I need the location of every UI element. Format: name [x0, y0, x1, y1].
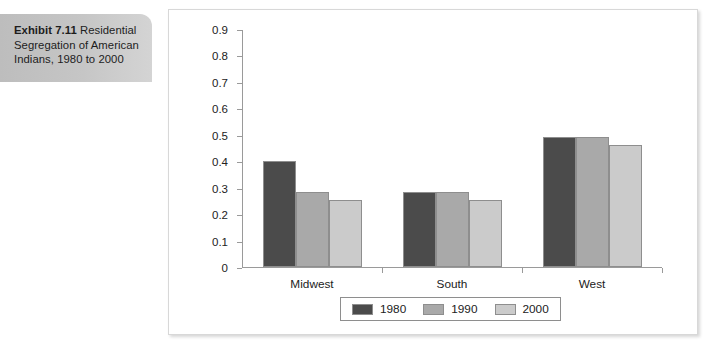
y-axis-tick-label: 0.5 [212, 130, 228, 142]
x-axis-tick [662, 268, 663, 273]
bar-midwest-2000 [329, 200, 362, 267]
chart-legend: 198019902000 [340, 297, 561, 321]
exhibit-caption-lead: Exhibit 7.11 [14, 24, 77, 36]
y-axis-tick-label: 0.8 [212, 50, 228, 62]
bar-west-2000 [609, 145, 642, 267]
y-axis-tick-label: 0.2 [212, 209, 228, 221]
legend-label-1990: 1990 [451, 302, 477, 316]
y-axis-tick-label: 0.7 [212, 77, 228, 89]
exhibit-caption-text: Exhibit 7.11 Residential Segregation of … [14, 23, 140, 67]
legend-label-1980: 1980 [380, 302, 406, 316]
y-axis-tick: 0.9 [237, 30, 242, 31]
y-axis-tick-label: 0.9 [212, 24, 228, 36]
x-axis-tick [382, 268, 383, 273]
exhibit-caption-block: Exhibit 7.11 Residential Segregation of … [0, 14, 152, 82]
bar-south-1990 [436, 192, 469, 267]
x-axis-label-south: South [437, 277, 468, 291]
legend-item-1980: 1980 [352, 302, 406, 316]
y-axis-tick: 0.6 [237, 109, 242, 110]
y-axis-tick-label: 0.3 [212, 183, 228, 195]
bar-west-1980 [543, 137, 576, 267]
bar-south-2000 [469, 200, 502, 267]
y-axis-line [242, 30, 243, 268]
y-axis-tick: 0.4 [237, 162, 242, 163]
x-axis-line [242, 267, 662, 268]
y-axis-tick: 0.1 [237, 242, 242, 243]
chart-plot-area: 0.90.80.70.60.50.40.30.20.10 MidwestSout… [242, 30, 662, 268]
y-axis-tick: 0.2 [237, 215, 242, 216]
legend-item-1990: 1990 [423, 302, 477, 316]
bar-midwest-1980 [263, 161, 296, 267]
legend-item-2000: 2000 [495, 302, 549, 316]
y-axis-tick: 0.5 [237, 136, 242, 137]
legend-swatch-1990 [423, 304, 444, 315]
legend-swatch-2000 [495, 304, 516, 315]
y-axis-tick-label: 0.4 [212, 156, 228, 168]
y-axis-tick-label: 0.6 [212, 103, 228, 115]
y-axis-tick: 0.3 [237, 189, 242, 190]
bar-midwest-1990 [296, 192, 329, 267]
bar-south-1980 [403, 192, 436, 267]
x-axis-label-west: West [579, 277, 606, 291]
y-axis-tick: 0 [237, 268, 242, 269]
y-axis-tick-label: 0 [222, 262, 228, 274]
chart-figure-frame: 0.90.80.70.60.50.40.30.20.10 MidwestSout… [168, 9, 698, 335]
legend-swatch-1980 [352, 304, 373, 315]
legend-label-2000: 2000 [523, 302, 549, 316]
x-axis-label-midwest: Midwest [290, 277, 333, 291]
y-axis-tick: 0.8 [237, 56, 242, 57]
bar-west-1990 [576, 137, 609, 267]
x-axis-tick [522, 268, 523, 273]
y-axis-tick: 0.7 [237, 83, 242, 84]
y-axis-tick-label: 0.1 [212, 236, 228, 248]
